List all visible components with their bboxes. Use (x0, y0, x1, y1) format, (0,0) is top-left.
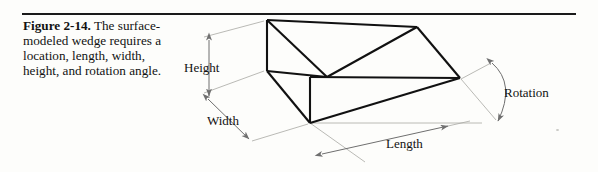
length-leader-line (448, 121, 470, 126)
extension-line-length-start (310, 123, 365, 162)
length-dimension-arrow (322, 126, 448, 154)
height-label: Height (184, 60, 219, 76)
extension-line-rotation-top (461, 64, 489, 79)
extension-lines (204, 21, 496, 162)
extension-line-rotation-base (461, 79, 496, 120)
rotation-label: Rotation (504, 85, 549, 101)
wedge-edge-back-diagonal (267, 20, 327, 77)
width-label: Width (207, 113, 239, 129)
wedge-edge-top-ridge (267, 20, 417, 27)
wedge-edge-bottom-front (310, 78, 460, 123)
figure-panel: Figure 2-14. The surface-modeled wedge r… (0, 0, 598, 172)
scan-artifact-speck (556, 129, 559, 131)
wedge-edge-left-front (267, 71, 310, 123)
wedge-solid (267, 20, 460, 123)
wedge-edge-right-slope (417, 27, 460, 78)
extension-line-height-top (204, 21, 264, 37)
extension-line-width-end (252, 124, 308, 141)
wedge-edge-mid-horizontal (310, 77, 460, 78)
wedge-edge-topface-diagonal (327, 27, 417, 77)
length-label: Length (386, 136, 423, 152)
